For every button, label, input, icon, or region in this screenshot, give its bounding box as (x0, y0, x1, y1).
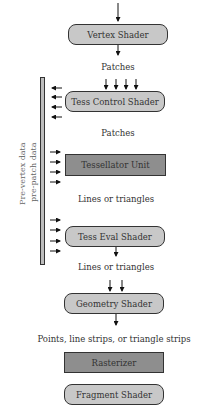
vertex-shader-stage: Vertex Shader (68, 24, 168, 45)
stage-label: Rasterizer (92, 358, 137, 368)
tess-eval-shader-stage: Tess Eval Shader (65, 226, 165, 247)
edge-label-lines-or-triangles-1: Lines or triangles (78, 194, 154, 204)
edge-label-primitive-strips: Points, line strips, or triangle strips (37, 334, 190, 344)
stage-label: Tess Control Shader (71, 97, 158, 107)
stage-label: Tessellator Unit (81, 160, 149, 170)
rasterizer-stage: Rasterizer (64, 352, 164, 373)
tess-control-shader-stage: Tess Control Shader (65, 91, 165, 112)
per-vertex-patch-data-store (40, 77, 45, 265)
store-label-line1: Pre-vertex data (18, 142, 27, 205)
edge-label-patches-1: Patches (101, 62, 134, 72)
stage-label: Vertex Shader (87, 30, 148, 40)
edge-label-patches-2: Patches (101, 128, 134, 138)
stage-label: Fragment Shader (76, 390, 152, 400)
edge-label-lines-or-triangles-2: Lines or triangles (78, 262, 154, 272)
stage-label: Geometry Shader (76, 299, 152, 309)
stage-label: Tess Eval Shader (78, 232, 152, 242)
fragment-shader-stage: Fragment Shader (64, 384, 164, 405)
geometry-shader-stage: Geometry Shader (64, 293, 164, 314)
store-label-line2: pre-patch data (29, 142, 38, 202)
tessellator-unit-stage: Tessellator Unit (65, 154, 166, 176)
